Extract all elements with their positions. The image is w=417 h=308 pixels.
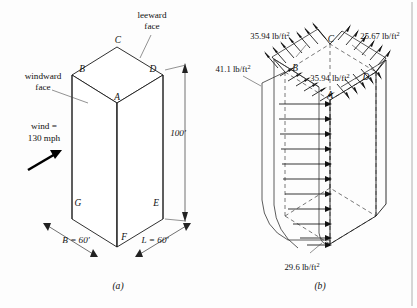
vertex-label-b-A: A: [326, 90, 333, 100]
windward-face-label-line2: face: [35, 82, 50, 92]
leader-top-left: [296, 45, 306, 57]
wind-speed-label-line2: 130 mph: [28, 133, 61, 143]
vertical-pressure-arrows: [279, 101, 332, 248]
leader-top-right: [352, 45, 366, 56]
pressure-label-top-left: 35.94 lb/ft2: [250, 30, 289, 42]
pressure-envelope-left: [274, 59, 298, 248]
band-BC-arrows: [264, 22, 326, 68]
panel-b-geometry: [243, 22, 391, 253]
pressure-label-mid-left: 41.1 lb/ft2: [216, 63, 251, 75]
wind-load-figure: leeward face windward face wind = 130 mp…: [0, 0, 417, 308]
building-a-side-face: [117, 75, 163, 247]
solid-right-offset: [376, 60, 386, 216]
vertex-label-a-B: B: [79, 64, 85, 74]
pressure-label-bottom: 29.6 lb/ft2: [285, 261, 320, 273]
vertex-label-b-C: C: [328, 34, 335, 44]
building-b-solid-edges: [330, 60, 386, 244]
vertex-label-a-G: G: [75, 198, 82, 208]
vertex-label-a-F: F: [120, 232, 127, 242]
building-a-windward-face: [72, 75, 117, 247]
wind-direction-arrow: [28, 153, 57, 170]
figure-container: leeward face windward face wind = 130 mp…: [0, 0, 417, 308]
panel-a-geometry: [28, 35, 191, 257]
pressure-label-top-right: 25.67 lb/ft2: [360, 30, 399, 42]
leader-bottom: [310, 243, 322, 253]
panel-b-caption: (b): [314, 280, 325, 292]
vertex-label-b-B: B: [292, 63, 298, 73]
height-dim-arrow-top: [182, 63, 188, 73]
vertex-label-a-C: C: [115, 35, 122, 45]
height-ext-line-bottom: [165, 219, 186, 221]
pressure-label-mid-right: 35.94 lb/ft2: [310, 72, 349, 84]
pressure-envelope-right: [319, 87, 330, 244]
wind-arrow-head: [50, 150, 62, 159]
vertical-pressure-distribution: [274, 59, 332, 248]
vertex-label-b-D: D: [362, 72, 370, 82]
solid-right-face: [330, 72, 376, 244]
leeward-leader-line: [140, 35, 151, 58]
leeward-face-label-line1: leeward: [137, 10, 166, 20]
windward-face-label-line1: windward: [25, 71, 62, 81]
length-dimension-label: L = 60': [141, 235, 170, 245]
side-envelope-top: [262, 72, 285, 83]
leeward-face-label-line2: face: [144, 21, 159, 31]
leader-mid-left: [243, 76, 261, 86]
height-dimension-label: 100': [170, 128, 187, 138]
panel-a-caption: (a): [112, 280, 123, 292]
vertex-label-a-E: E: [152, 198, 159, 208]
dashed-base-back: [285, 188, 376, 216]
height-ext-line-top: [165, 65, 186, 70]
side-envelope-curve: [262, 83, 330, 240]
wind-speed-label-line1: wind =: [31, 121, 57, 131]
breadth-dimension-label: B = 60': [62, 235, 91, 245]
vertex-label-a-D: D: [149, 64, 157, 74]
side-pressure-envelope: [262, 72, 330, 240]
vertex-label-a-A: A: [113, 92, 120, 102]
